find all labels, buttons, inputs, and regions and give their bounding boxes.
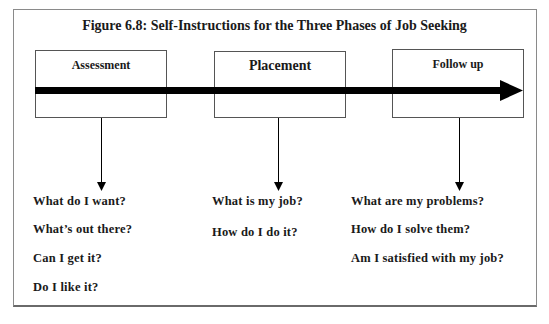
question-item: How do I do it? [212,225,298,240]
down-arrow-head-assessment [97,182,106,191]
down-arrow-head-placement [274,182,283,191]
question-item: Do I like it? [33,280,98,295]
question-item: What are my problems? [351,194,484,209]
diagram-arrows [0,0,549,324]
question-item: How do I solve them? [351,222,470,237]
question-item: What’s out there? [33,222,132,237]
timeline-arrow-head [500,80,523,101]
question-item: What do I want? [33,194,126,209]
down-arrow-head-follow-up [455,182,464,191]
timeline-arrow-shaft [35,87,502,94]
question-item: Am I satisfied with my job? [351,251,504,266]
question-item: Can I get it? [33,251,102,266]
question-item: What is my job? [212,194,303,209]
